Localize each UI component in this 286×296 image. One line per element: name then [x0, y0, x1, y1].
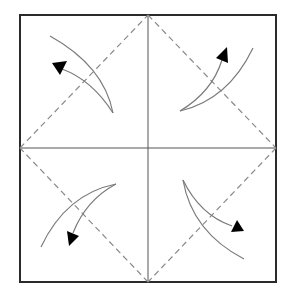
diagram-svg [0, 0, 286, 296]
origami-diagram [0, 0, 286, 296]
